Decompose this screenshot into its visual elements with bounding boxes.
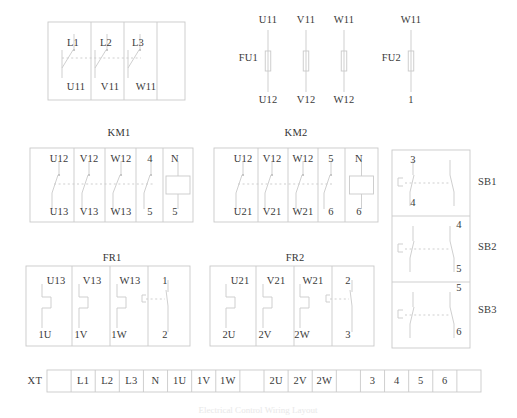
fr1-top-terminal-2: W13 [119, 276, 140, 287]
xt-terminal-16: 6 [442, 376, 447, 387]
km2-bottom-terminal-0: U21 [234, 207, 253, 218]
km1-bottom-terminal-1: V13 [80, 207, 99, 218]
sb2-top-terminal: 4 [456, 220, 461, 231]
qs-top-terminal-l3: L3 [132, 38, 144, 49]
km1-contact-dot-0 [58, 174, 60, 176]
fr1-top-terminal-0: U13 [47, 276, 66, 287]
fr2-bottom-terminal-3: 3 [345, 330, 350, 341]
km2-coil-body [350, 176, 374, 194]
xt-terminal-7: 1W [220, 376, 236, 387]
fr2-top-terminal-1: V21 [267, 276, 286, 287]
fr1-heater-1 [79, 284, 88, 328]
km1-top-terminal-2: W12 [110, 154, 131, 165]
km1-top-terminal-0: U12 [50, 154, 69, 165]
km1-coil-body [166, 176, 190, 194]
xt-terminal-13: 3 [370, 376, 375, 387]
km1-bottom-terminal-2: W13 [110, 207, 131, 218]
fu1-top-terminal-w11: W11 [334, 15, 355, 26]
km1-bottom-terminal-3: 5 [147, 207, 152, 218]
qs-bottom-terminal-v11: V11 [101, 82, 119, 93]
xt-terminal-10: 2V [294, 376, 307, 387]
xt-terminal-5: 1U [173, 376, 186, 387]
fr2-heater-2 [300, 284, 309, 328]
sb3-actuator-bracket [398, 310, 403, 318]
km2-bottom-terminal-2: W21 [292, 207, 313, 218]
sb2-left-blade [410, 241, 414, 258]
fu1-bottom-terminal-w12: W12 [333, 95, 354, 106]
km2-contact-dot-2 [302, 174, 304, 176]
km1-bottom-terminal-0: U13 [50, 207, 69, 218]
sb3-device-label: SB3 [478, 305, 497, 316]
sb3-top-terminal: 5 [456, 283, 461, 294]
km1-top-terminal-3: 4 [147, 154, 152, 165]
fr1-top-terminal-1: V13 [83, 276, 102, 287]
xt-terminal-9: 2U [269, 376, 282, 387]
sb3-right-blade [450, 307, 454, 324]
figure-caption: Electrical Control Wiring Layout [198, 405, 317, 415]
fr2-bottom-terminal-2: 2W [294, 330, 310, 341]
km1-bottom-terminal-4: 5 [172, 207, 177, 218]
qs-contact-dot-1 [106, 49, 108, 51]
sb2-right-blade [450, 241, 454, 258]
sb1-actuator-bracket [398, 178, 403, 186]
km2-contact-dot-3 [330, 174, 332, 176]
fr2-top-terminal-3: 2 [345, 276, 350, 287]
qs-blade-1 [95, 50, 106, 68]
fr1-contact-blade [166, 290, 168, 306]
sb3-bottom-terminal: 6 [456, 327, 461, 338]
xt-terminal-1: L1 [77, 376, 89, 387]
km2-contact-dot-1 [271, 174, 273, 176]
km2-top-terminal-2: W12 [292, 154, 313, 165]
fr2-top-terminal-0: U21 [231, 276, 250, 287]
sb2-device-label: SB2 [478, 242, 497, 253]
fr1-bottom-terminal-1: 1V [74, 330, 87, 341]
km2-device-label: KM2 [285, 128, 308, 139]
fr2-bottom-terminal-0: 2U [222, 330, 235, 341]
sb1-right-blade [450, 175, 454, 192]
fr2-device-label: FR2 [286, 253, 305, 264]
qs-bottom-terminal-w11: W11 [136, 82, 157, 93]
xt-terminal-6: 1V [197, 376, 210, 387]
fu1-bottom-terminal-v12: V12 [297, 95, 316, 106]
km1-top-terminal-1: V12 [80, 154, 99, 165]
xt-terminal-11: 2W [316, 376, 332, 387]
fr1-bottom-terminal-3: 2 [162, 330, 167, 341]
fu2-device-label: FU2 [382, 53, 401, 64]
qs-blade-0 [62, 50, 73, 68]
fu1-top-terminal-v11: V11 [297, 15, 315, 26]
fu1-top-terminal-u11: U11 [259, 15, 277, 26]
fu1-bottom-terminal-u12: U12 [259, 95, 278, 106]
fr2-trip-bracket [326, 295, 330, 302]
qs-top-terminal-l1: L1 [67, 38, 79, 49]
km2-top-terminal-4: N [355, 154, 363, 165]
km2-top-terminal-1: V12 [263, 154, 282, 165]
xt-device-label: XT [28, 376, 42, 387]
xt-terminal-4: N [152, 376, 160, 387]
qs-contact-dot-0 [73, 49, 75, 51]
fr2-bottom-terminal-1: 2V [258, 330, 271, 341]
qs-blade-2 [128, 50, 139, 68]
qs-top-terminal-l2: L2 [100, 38, 112, 49]
qs-bottom-terminal-u11: U11 [67, 82, 85, 93]
km1-device-label: KM1 [108, 128, 131, 139]
fu1-device-label: FU1 [239, 53, 258, 64]
sb1-device-label: SB1 [478, 177, 497, 188]
km1-contact-dot-3 [150, 174, 152, 176]
fu2-top-terminal-w11: W11 [401, 15, 422, 26]
sb2-actuator-bracket [398, 244, 403, 252]
fr1-trip-bracket [142, 295, 146, 302]
sb1-left-blade [410, 175, 414, 192]
km2-top-terminal-3: 5 [328, 154, 333, 165]
km2-bottom-terminal-4: 6 [356, 207, 361, 218]
km2-contact-dot-0 [242, 174, 244, 176]
km1-top-terminal-4: N [171, 154, 179, 165]
km2-bottom-terminal-1: V21 [263, 207, 282, 218]
sb-panel-outline [392, 150, 470, 348]
km2-top-terminal-0: U12 [234, 154, 253, 165]
fu2-bottom-terminal-1: 1 [408, 95, 413, 106]
xt-terminal-15: 5 [418, 376, 423, 387]
fr2-contact-blade [350, 290, 352, 306]
xt-terminal-3: L3 [125, 376, 137, 387]
fr1-heater-2 [117, 284, 126, 328]
wiring-diagram-sheet: L1 L2 L3 U11 V11 W11 U11 V11 W11 FU1 U12… [0, 0, 517, 418]
